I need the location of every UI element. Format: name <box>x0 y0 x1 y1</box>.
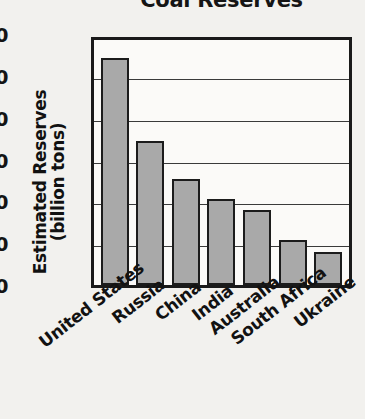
chart-title: Coal Reserves <box>91 0 352 12</box>
bar-united-states <box>101 58 129 285</box>
coal-reserves-bar-chart: Coal Reserves Estimated Reserves (billio… <box>0 0 365 419</box>
bar-russia <box>136 141 164 285</box>
bar-china <box>172 179 200 285</box>
plot-area <box>91 37 352 288</box>
bar-series <box>94 40 349 285</box>
y-tick-label-100: 100 <box>0 191 8 213</box>
bar-india <box>207 199 235 285</box>
x-axis-category-labels: United StatesRussiaChinaIndiaAustraliaSo… <box>0 292 365 419</box>
y-tick-label-50: 50 <box>0 233 8 255</box>
y-axis-title-line2: (billion tons) <box>50 90 68 275</box>
y-tick-label-300: 300 <box>0 24 8 46</box>
y-tick-label-250: 250 <box>0 66 8 88</box>
y-axis-title: Estimated Reserves (billion tons) <box>30 57 70 307</box>
y-tick-label-150: 150 <box>0 150 8 172</box>
y-tick-label-200: 200 <box>0 108 8 130</box>
y-axis-title-line1: Estimated Reserves <box>30 90 50 275</box>
